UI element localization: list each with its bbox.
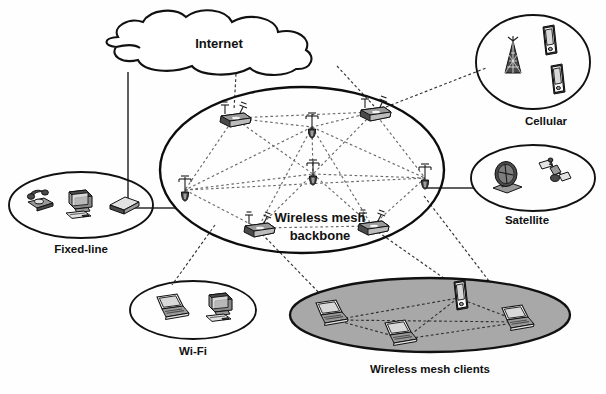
- cell-tower-icon[interactable]: [505, 36, 521, 73]
- cellular-boundary: [476, 15, 590, 109]
- backbone-node-center[interactable]: [307, 160, 319, 185]
- backbone-node-right[interactable]: [419, 164, 431, 189]
- telephone-icon[interactable]: [27, 190, 53, 211]
- link-gateway-cellular: [386, 68, 486, 107]
- fixed-line-label: Fixed-line: [54, 243, 108, 255]
- link-backbone-clients-left: [262, 234, 327, 301]
- link-internet-gateway-right: [337, 66, 374, 106]
- cluster-wifi[interactable]: Wi-Fi: [130, 281, 256, 357]
- backbone-label-line2: backbone: [290, 228, 351, 243]
- desktop-computer-icon[interactable]: [206, 293, 232, 321]
- wireless-mesh-backbone[interactable]: Wireless mesh backbone: [160, 87, 444, 253]
- satellite-dish-icon[interactable]: [493, 162, 522, 194]
- backbone-label-line1: Wireless mesh: [275, 210, 366, 225]
- wifi-label: Wi-Fi: [179, 345, 207, 357]
- mobile-phone-icon[interactable]: [454, 280, 468, 310]
- modem-icon[interactable]: [110, 197, 139, 214]
- link-backbone-wifi: [172, 225, 215, 285]
- satellite-icon[interactable]: [539, 158, 571, 181]
- mesh-clients-label: Wireless mesh clients: [370, 363, 490, 375]
- internet-label: Internet: [195, 36, 243, 51]
- cluster-cellular[interactable]: Cellular: [476, 15, 590, 127]
- internet-cloud[interactable]: Internet: [107, 10, 312, 75]
- mobile-phone-icon-2[interactable]: [551, 64, 565, 94]
- link-internet-gateway-left: [234, 74, 236, 110]
- satellite-label: Satellite: [505, 214, 549, 226]
- cluster-fixed-line[interactable]: Fixed-line: [9, 172, 153, 255]
- cluster-wireless-mesh-clients[interactable]: Wireless mesh clients: [290, 278, 570, 375]
- backbone-gateway-top-left[interactable]: [220, 102, 251, 127]
- mobile-phone-icon-1[interactable]: [543, 25, 557, 55]
- diagram-canvas: Internet: [0, 0, 606, 394]
- satellite-boundary: [471, 145, 595, 211]
- desktop-computer-icon[interactable]: [66, 190, 92, 218]
- wifi-boundary: [130, 281, 256, 339]
- network-diagram: Internet: [0, 0, 606, 394]
- cellular-label: Cellular: [525, 115, 568, 127]
- cluster-satellite[interactable]: Satellite: [471, 145, 595, 226]
- laptop-icon[interactable]: [157, 294, 189, 320]
